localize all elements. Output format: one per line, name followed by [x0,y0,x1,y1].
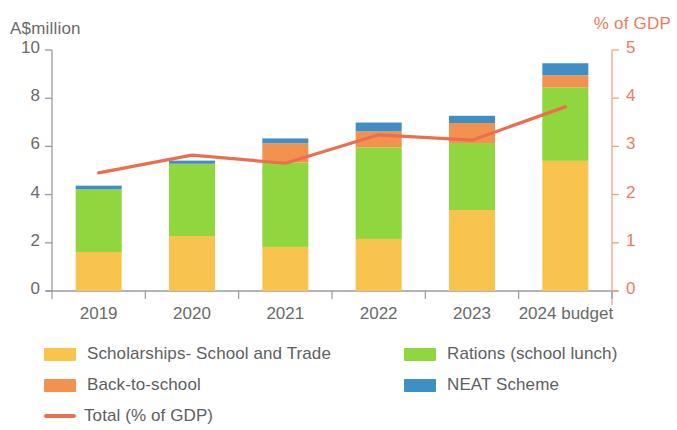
bar-segment [262,163,308,247]
right-axis-title: % of GDP [594,14,671,34]
bar-segment [76,252,122,291]
legend-label: Scholarships- School and Trade [87,344,331,364]
legend-item[interactable]: Total (% of GDP) [44,406,213,426]
bar-segment [449,210,495,291]
bar-segment [356,147,402,239]
x-axis-category-label: 2022 [332,304,425,324]
x-axis-category-label: 2024 budget [519,304,612,324]
bar-group [169,161,215,291]
bar-segment [542,63,588,75]
bar-group [449,116,495,291]
legend-label: Total (% of GDP) [84,406,213,426]
bar-segment [169,161,215,164]
chart-container: A$million % of GDP 024681001234520192020… [0,0,677,430]
bar-segment [169,236,215,291]
right-axis-tick-label: 2 [626,183,652,203]
right-axis-tick-label: 0 [626,279,652,299]
plot-area [0,0,677,342]
bar-segment [262,138,308,143]
bar-segment [449,116,495,123]
legend-label: NEAT Scheme [447,375,559,395]
bar-group [542,63,588,291]
left-axis-tick-label: 6 [14,134,40,154]
bar-segment [76,189,122,252]
x-axis-category-label: 2021 [239,304,332,324]
legend-swatch-icon [44,379,76,392]
left-axis-tick-label: 0 [14,279,40,299]
x-axis-category-label: 2019 [52,304,145,324]
bar-segment [76,186,122,190]
legend-line-marker-icon [44,414,76,418]
legend-item[interactable]: Scholarships- School and Trade [44,344,331,364]
bar-segment [542,87,588,161]
bar-segment [169,164,215,236]
legend-swatch-icon [404,379,436,392]
bar-segment [356,123,402,132]
left-axis-tick-label: 4 [14,183,40,203]
left-axis-tick-label: 10 [14,38,40,58]
bar-segment [542,161,588,291]
right-axis-tick-label: 4 [626,86,652,106]
legend-swatch-icon [44,348,76,361]
bar-group [76,186,122,291]
x-axis-category-label: 2020 [145,304,238,324]
chart-legend: Scholarships- School and TradeRations (s… [0,342,677,430]
total-gdp-line [99,107,566,173]
x-axis-category-label: 2023 [425,304,518,324]
legend-label: Rations (school lunch) [447,344,617,364]
left-axis-tick-label: 2 [14,231,40,251]
bar-group [356,123,402,291]
legend-item[interactable]: NEAT Scheme [404,375,559,395]
legend-label: Back-to-school [87,375,201,395]
bar-segment [542,75,588,87]
legend-item[interactable]: Rations (school lunch) [404,344,617,364]
bar-segment [262,247,308,291]
right-axis-tick-label: 5 [626,38,652,58]
right-axis-tick-label: 1 [626,231,652,251]
legend-swatch-icon [404,348,436,361]
left-axis-tick-label: 8 [14,86,40,106]
right-axis-tick-label: 3 [626,134,652,154]
bar-segment [449,143,495,210]
legend-item[interactable]: Back-to-school [44,375,201,395]
bar-segment [356,239,402,291]
left-axis-title: A$million [10,19,81,39]
